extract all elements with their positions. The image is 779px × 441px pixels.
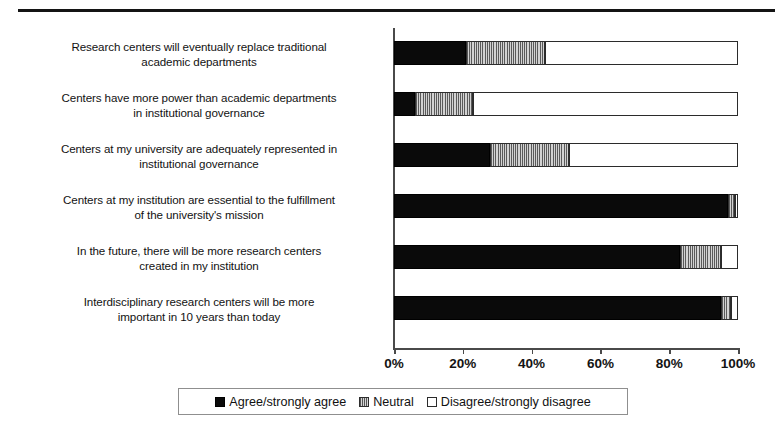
axis-tick: [600, 348, 602, 354]
axis-tick-label: 60%: [587, 356, 614, 371]
legend-item-label: Agree/strongly agree: [229, 395, 346, 409]
stacked-bar-chart: Research centers will eventually replace…: [0, 0, 779, 441]
category-label-line: Centers at my institution are essential …: [63, 192, 335, 207]
bar-segment-disagree[interactable]: [731, 296, 738, 320]
category-label: In the future, there will be more resear…: [12, 232, 386, 283]
bar-segment-neutral[interactable]: [728, 194, 735, 218]
axis-tick-label: 40%: [518, 356, 545, 371]
category-label-line: created in my institution: [139, 258, 258, 273]
bar-segment-disagree[interactable]: [569, 143, 738, 167]
bar-segment-agree[interactable]: [394, 194, 728, 218]
x-axis: 0%20%40%60%80%100%: [0, 348, 779, 378]
stacked-bar[interactable]: [394, 194, 738, 218]
chart-row: Interdisciplinary research centers will …: [0, 283, 779, 334]
axis-tick-label: 80%: [656, 356, 683, 371]
disagree-swatch-icon: [427, 397, 437, 407]
category-label: Interdisciplinary research centers will …: [12, 283, 386, 334]
chart-row: Research centers will eventually replace…: [0, 28, 779, 79]
legend-item-label: Disagree/strongly disagree: [441, 395, 591, 409]
axis-tick-label: 20%: [449, 356, 476, 371]
bar-segment-agree[interactable]: [394, 296, 721, 320]
category-label-line: Centers at my university are adequately …: [61, 141, 337, 156]
bar-segment-agree[interactable]: [394, 143, 490, 167]
category-label: Research centers will eventually replace…: [12, 28, 386, 79]
axis-tick-label: 0%: [384, 356, 404, 371]
bar-segment-disagree[interactable]: [735, 194, 738, 218]
bar-segment-neutral[interactable]: [466, 41, 545, 65]
axis-tick: [532, 348, 534, 354]
axis-tick: [463, 348, 465, 354]
category-label-line: Research centers will eventually replace…: [71, 39, 326, 54]
chart-row: Centers at my institution are essential …: [0, 181, 779, 232]
stacked-bar[interactable]: [394, 245, 738, 269]
legend-item-label: Neutral: [373, 395, 414, 409]
bar-segment-disagree[interactable]: [473, 92, 738, 116]
axis-tick: [669, 348, 671, 354]
category-label: Centers at my university are adequately …: [12, 130, 386, 181]
neutral-swatch-icon: [359, 397, 369, 407]
stacked-bar[interactable]: [394, 296, 738, 320]
bar-segment-disagree[interactable]: [545, 41, 738, 65]
bar-segment-neutral[interactable]: [490, 143, 569, 167]
category-label: Centers at my institution are essential …: [12, 181, 386, 232]
category-label-line: of the university's mission: [134, 207, 263, 222]
bar-segment-disagree[interactable]: [721, 245, 738, 269]
category-label: Centers have more power than academic de…: [12, 79, 386, 130]
category-label-line: Centers have more power than academic de…: [62, 90, 337, 105]
bar-segment-neutral[interactable]: [415, 92, 473, 116]
bar-segment-agree[interactable]: [394, 41, 466, 65]
chart-row: Centers have more power than academic de…: [0, 79, 779, 130]
category-label-line: In the future, there will be more resear…: [77, 243, 321, 258]
category-label-line: important in 10 years than today: [118, 309, 280, 324]
stacked-bar[interactable]: [394, 41, 738, 65]
stacked-bar[interactable]: [394, 92, 738, 116]
axis-tick: [394, 348, 396, 354]
stacked-bar[interactable]: [394, 143, 738, 167]
legend-item[interactable]: Neutral: [359, 395, 414, 409]
bar-segment-agree[interactable]: [394, 245, 680, 269]
legend-item[interactable]: Agree/strongly agree: [215, 395, 346, 409]
chart-legend: Agree/strongly agreeNeutralDisagree/stro…: [178, 388, 628, 415]
bar-segment-neutral[interactable]: [721, 296, 731, 320]
chart-row: Centers at my university are adequately …: [0, 130, 779, 181]
axis-tick: [738, 348, 740, 354]
category-label-line: Interdisciplinary research centers will …: [84, 294, 315, 309]
chart-row: In the future, there will be more resear…: [0, 232, 779, 283]
category-label-line: institutional governance: [139, 156, 258, 171]
bar-segment-agree[interactable]: [394, 92, 415, 116]
category-label-line: in institutional governance: [133, 105, 264, 120]
axis-tick-label: 100%: [721, 356, 756, 371]
bar-segment-neutral[interactable]: [680, 245, 721, 269]
category-label-line: academic departments: [141, 54, 256, 69]
agree-swatch-icon: [215, 397, 225, 407]
legend-item[interactable]: Disagree/strongly disagree: [427, 395, 591, 409]
